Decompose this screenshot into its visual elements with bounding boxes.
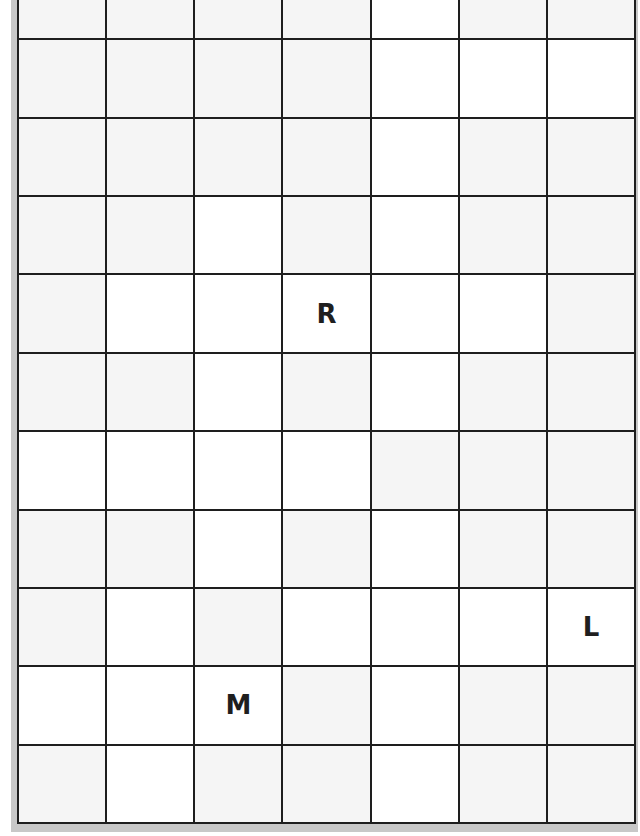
grid-cell-r7-c0[interactable] — [19, 511, 105, 587]
grid-cell-r4-c2[interactable] — [195, 275, 281, 351]
grid-cell-r8-c4[interactable] — [372, 589, 458, 665]
grid-cell-r0-c5[interactable] — [460, 0, 546, 38]
grid-cell-r6-c0[interactable] — [19, 432, 105, 508]
grid-cell-r1-c0[interactable] — [19, 40, 105, 116]
grid-cell-r4-c1[interactable] — [107, 275, 193, 351]
grid-cell-r7-c5[interactable] — [460, 511, 546, 587]
grid-cell-r10-c3[interactable] — [283, 746, 369, 822]
grid-cell-r8-c0[interactable] — [19, 589, 105, 665]
grid-cell-r7-c3[interactable] — [283, 511, 369, 587]
grid-cell-r9-c0[interactable] — [19, 667, 105, 743]
grid-cell-r0-c0[interactable] — [19, 0, 105, 38]
grid-cell-r9-c1[interactable] — [107, 667, 193, 743]
grid-cell-r5-c1[interactable] — [107, 354, 193, 430]
grid-cell-r3-c1[interactable] — [107, 197, 193, 273]
grid-cell-r6-c6[interactable] — [548, 432, 634, 508]
grid-cell-r9-c2[interactable]: M — [195, 667, 281, 743]
grid-cell-r5-c3[interactable] — [283, 354, 369, 430]
grid-cell-r8-c6[interactable]: L — [548, 589, 634, 665]
grid-cell-r7-c6[interactable] — [548, 511, 634, 587]
puzzle-grid: RLM — [17, 0, 636, 824]
grid-cell-r4-c3[interactable]: R — [283, 275, 369, 351]
grid-cell-r2-c4[interactable] — [372, 119, 458, 195]
grid-cell-r8-c1[interactable] — [107, 589, 193, 665]
grid-cell-r0-c3[interactable] — [283, 0, 369, 38]
grid-cell-r2-c3[interactable] — [283, 119, 369, 195]
grid-cell-r10-c6[interactable] — [548, 746, 634, 822]
grid-cell-r2-c1[interactable] — [107, 119, 193, 195]
grid-cell-r5-c5[interactable] — [460, 354, 546, 430]
grid-cell-r7-c2[interactable] — [195, 511, 281, 587]
grid-cell-r8-c3[interactable] — [283, 589, 369, 665]
cell-letter: R — [316, 301, 336, 327]
grid-cell-r3-c5[interactable] — [460, 197, 546, 273]
grid-cell-r5-c4[interactable] — [372, 354, 458, 430]
grid-cell-r7-c4[interactable] — [372, 511, 458, 587]
cell-letter: L — [583, 614, 600, 640]
grid-cell-r3-c0[interactable] — [19, 197, 105, 273]
grid-cell-r2-c2[interactable] — [195, 119, 281, 195]
grid-cell-r1-c4[interactable] — [372, 40, 458, 116]
grid-cell-r10-c0[interactable] — [19, 746, 105, 822]
grid-cell-r2-c5[interactable] — [460, 119, 546, 195]
grid-cell-r5-c0[interactable] — [19, 354, 105, 430]
grid-cell-r6-c3[interactable] — [283, 432, 369, 508]
grid-cell-r1-c6[interactable] — [548, 40, 634, 116]
grid-cell-r1-c3[interactable] — [283, 40, 369, 116]
grid-cell-r3-c2[interactable] — [195, 197, 281, 273]
grid-cell-r6-c4[interactable] — [372, 432, 458, 508]
grid-cell-r7-c1[interactable] — [107, 511, 193, 587]
grid-cell-r5-c2[interactable] — [195, 354, 281, 430]
grid-cell-r9-c6[interactable] — [548, 667, 634, 743]
grid-cell-r6-c1[interactable] — [107, 432, 193, 508]
grid-cell-r4-c6[interactable] — [548, 275, 634, 351]
grid-cell-r9-c4[interactable] — [372, 667, 458, 743]
grid-cell-r8-c5[interactable] — [460, 589, 546, 665]
grid-cell-r4-c4[interactable] — [372, 275, 458, 351]
grid-cell-r9-c3[interactable] — [283, 667, 369, 743]
grid-cell-r10-c1[interactable] — [107, 746, 193, 822]
grid-cell-r1-c5[interactable] — [460, 40, 546, 116]
grid-cell-r9-c5[interactable] — [460, 667, 546, 743]
grid-cell-r0-c2[interactable] — [195, 0, 281, 38]
grid-cell-r3-c6[interactable] — [548, 197, 634, 273]
grid-cell-r6-c2[interactable] — [195, 432, 281, 508]
cell-letter: M — [225, 692, 251, 718]
grid-cell-r5-c6[interactable] — [548, 354, 634, 430]
grid-cell-r3-c4[interactable] — [372, 197, 458, 273]
grid-cell-r1-c2[interactable] — [195, 40, 281, 116]
grid-cell-r3-c3[interactable] — [283, 197, 369, 273]
grid-cell-r2-c0[interactable] — [19, 119, 105, 195]
grid-cell-r1-c1[interactable] — [107, 40, 193, 116]
grid-cell-r4-c0[interactable] — [19, 275, 105, 351]
grid-cell-r10-c2[interactable] — [195, 746, 281, 822]
grid-cell-r0-c1[interactable] — [107, 0, 193, 38]
grid-cell-r6-c5[interactable] — [460, 432, 546, 508]
grid-cell-r2-c6[interactable] — [548, 119, 634, 195]
grid-cell-r0-c6[interactable] — [548, 0, 634, 38]
grid-cell-r8-c2[interactable] — [195, 589, 281, 665]
grid-cell-r10-c5[interactable] — [460, 746, 546, 822]
grid-cell-r10-c4[interactable] — [372, 746, 458, 822]
grid-cell-r4-c5[interactable] — [460, 275, 546, 351]
grid-cell-r0-c4[interactable] — [372, 0, 458, 38]
